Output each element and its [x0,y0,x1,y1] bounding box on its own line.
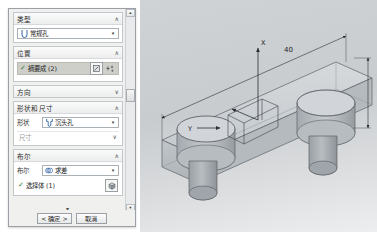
boolean-combo-value: 求差 [55,166,109,175]
counterbore-icon [45,119,53,127]
shape-label: 形状 [17,118,39,127]
subtract-icon [45,167,53,175]
chevron-down-icon[interactable]: ▾ [109,120,117,125]
select-body-label: 选择体 (1) [26,181,103,190]
group-shape-size-body: 形状 沉头孔 ▾ 尺寸 ∨ [14,114,122,145]
group-boolean-body: 布尔 求差 ▾ ✓ 选择体 (1) [14,162,122,195]
group-boolean-header[interactable]: 布尔 ∧ [14,150,122,162]
group-position: 位置 ∧ ✓ 摘要成 (2) [13,46,123,82]
group-shape-size: 形状和尺寸 ∧ 形状 沉头孔 ▾ 尺寸 ∨ [13,101,123,146]
graphics-viewport[interactable]: X Y 40 [140,0,377,232]
dimension-40-label: 40 [284,46,293,54]
shape-combo[interactable]: 沉头孔 ▾ [42,117,119,128]
position-selection-label: 摘要成 (2) [28,64,88,73]
group-shape-size-header[interactable]: 形状和尺寸 ∧ [14,102,122,114]
hole-type-icon [20,30,28,38]
dimensions-label: 尺寸 [19,133,31,142]
group-shape-size-title: 形状和尺寸 [17,103,53,113]
chevron-up-icon[interactable]: ∧ [115,105,119,111]
group-type: 类型 ∧ 常规孔 ▾ [13,12,123,43]
counterbore-hole-left [177,116,235,200]
hole-feature-dialog[interactable]: 类型 ∧ 常规孔 ▾ 位置 ∧ ✓ [8,8,136,227]
chevron-down-icon[interactable]: ▾ [109,168,117,173]
axis-label-x: X [261,39,266,47]
chevron-up-icon[interactable]: ∧ [115,153,119,159]
position-selection-row[interactable]: ✓ 摘要成 (2) [17,62,119,75]
scrollbar-thumb[interactable] [126,89,135,102]
group-type-title: 类型 [17,14,31,24]
group-boolean-title: 布尔 [17,151,31,161]
group-boolean: 布尔 ∧ 布尔 求差 ▾ ✓ 选择体 (1) [13,149,123,196]
dimensions-subsection[interactable]: 尺寸 ∨ [17,131,119,142]
chevron-down-icon[interactable]: ▾ [109,31,117,36]
add-point-icon[interactable] [105,63,116,74]
group-position-body: ✓ 摘要成 (2) [14,59,122,81]
boolean-row: 布尔 求差 ▾ [17,165,119,176]
model-canvas: X Y 40 [140,0,377,232]
chevron-up-icon[interactable]: ∧ [115,50,119,56]
select-body-row[interactable]: ✓ 选择体 (1) [17,179,119,192]
check-icon: ✓ [18,182,24,189]
select-body-icon[interactable] [105,179,118,192]
dialog-footer: < 确定 > 取消 [9,210,135,226]
counterbore-hole-right [297,90,355,175]
dialog-scrollbar[interactable]: ▴ ▾ [125,9,135,212]
shape-combo-value: 沉头孔 [55,118,109,127]
scrollbar-track[interactable] [126,17,135,204]
scroll-up-button[interactable]: ▴ [126,9,135,17]
group-direction: 方向 ∨ [13,85,123,98]
type-combo-value: 常规孔 [30,29,109,38]
ok-button[interactable]: < 确定 > [37,213,71,224]
type-combo[interactable]: 常规孔 ▾ [17,28,119,39]
boolean-label: 布尔 [17,166,39,175]
shape-row: 形状 沉头孔 ▾ [17,117,119,128]
group-type-body: 常规孔 ▾ [14,25,122,42]
chevron-down-icon[interactable]: ∨ [115,89,119,95]
group-position-title: 位置 [17,48,31,58]
chevron-down-icon[interactable]: ∨ [113,134,117,140]
sketch-section-icon[interactable] [90,62,103,75]
group-position-header[interactable]: 位置 ∧ [14,47,122,59]
chevron-up-icon[interactable]: ∧ [115,16,119,22]
check-icon: ✓ [20,65,26,72]
cancel-button[interactable]: 取消 [76,213,107,224]
dialog-scroll-content: 类型 ∧ 常规孔 ▾ 位置 ∧ ✓ [9,9,126,205]
group-type-header[interactable]: 类型 ∧ [14,13,122,25]
group-direction-title: 方向 [17,87,31,97]
group-direction-header[interactable]: 方向 ∨ [14,86,122,97]
boolean-combo[interactable]: 求差 ▾ [42,165,119,176]
axis-label-y: Y [187,125,192,133]
